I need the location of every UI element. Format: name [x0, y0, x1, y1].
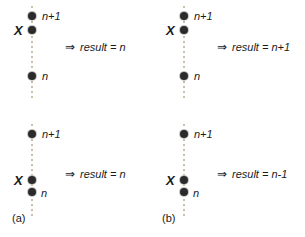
result-expression: ⇒result = n+1 [217, 41, 290, 54]
result-text: result = n-1 [232, 168, 287, 180]
panel-a-top: n+1 X n ⇒result = n [0, 0, 152, 118]
data-point-marked [28, 26, 36, 34]
result-text: result = n+1 [232, 41, 290, 53]
data-point-n [28, 188, 36, 196]
caption-b: (b) [162, 212, 175, 224]
implies-arrow: ⇒ [65, 167, 80, 181]
result-expression: ⇒result = n-1 [217, 168, 287, 181]
point-label-n-plus-1: n+1 [42, 11, 61, 22]
result-text: result = n [80, 168, 126, 180]
data-point-marked [180, 26, 188, 34]
result-text: result = n [80, 41, 126, 53]
data-point-n-plus-1 [180, 12, 188, 20]
point-label-n-plus-1: n+1 [194, 11, 213, 22]
dotted-axis-line [183, 124, 185, 218]
dotted-axis-line [183, 6, 185, 100]
point-label-n-plus-1: n+1 [42, 129, 61, 140]
data-point-n-plus-1 [28, 12, 36, 20]
caption-a: (a) [12, 212, 25, 224]
implies-arrow: ⇒ [217, 167, 232, 181]
point-label-n: n [193, 188, 199, 199]
implies-arrow: ⇒ [217, 40, 232, 54]
result-expression: ⇒result = n [65, 41, 126, 54]
panel-b-top: n+1 X n ⇒result = n+1 [152, 0, 304, 118]
dotted-axis-line [31, 6, 33, 100]
query-marker-x: X [14, 174, 23, 187]
data-point-n [180, 188, 188, 196]
result-expression: ⇒result = n [65, 168, 126, 181]
point-label-n: n [194, 71, 200, 82]
point-label-n: n [42, 71, 48, 82]
data-point-n-plus-1 [180, 130, 188, 138]
dotted-axis-line [31, 124, 33, 218]
data-point-n [28, 72, 36, 80]
figure-canvas: n+1 X n ⇒result = n n+1 X n ⇒result = n+… [0, 0, 305, 237]
data-point-n-plus-1 [28, 130, 36, 138]
point-label-n-plus-1: n+1 [194, 129, 213, 140]
data-point-marked [180, 176, 188, 184]
query-marker-x: X [14, 24, 23, 37]
data-point-n [180, 72, 188, 80]
implies-arrow: ⇒ [65, 40, 80, 54]
data-point-marked [28, 176, 36, 184]
query-marker-x: X [166, 174, 175, 187]
query-marker-x: X [166, 24, 175, 37]
point-label-n: n [41, 188, 47, 199]
